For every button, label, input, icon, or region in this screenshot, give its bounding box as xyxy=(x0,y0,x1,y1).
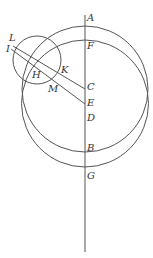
label-f: F xyxy=(87,41,94,51)
label-e: E xyxy=(87,98,94,108)
label-d: D xyxy=(87,113,95,123)
label-g: G xyxy=(87,171,95,181)
geometry-figure xyxy=(0,0,153,258)
label-l: L xyxy=(9,33,16,43)
label-m: M xyxy=(48,84,58,94)
label-h: H xyxy=(32,70,41,80)
label-b: B xyxy=(87,143,94,153)
label-k: K xyxy=(61,65,68,75)
label-c: C xyxy=(87,82,95,92)
label-i: I xyxy=(6,44,10,54)
label-a: A xyxy=(87,13,94,23)
